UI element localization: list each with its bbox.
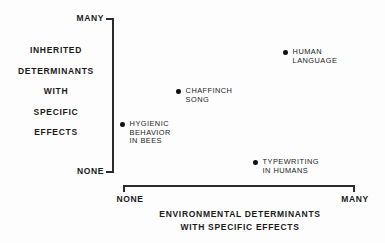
data-point-chaffinch-song[interactable]: CHAFFINCH SONG (176, 87, 232, 104)
data-point-label-line: IN BEES (130, 137, 171, 146)
data-point-label: HUMAN LANGUAGE (293, 48, 338, 65)
x-axis-line (123, 185, 355, 187)
y-axis-title-line: WITH (8, 81, 104, 102)
scatter-plot-figure: MANY NONE NONE MANY INHERITED DETERMINAN… (0, 0, 385, 243)
x-axis-tick-left (123, 185, 125, 192)
x-axis-tick-right (353, 185, 355, 192)
data-point-marker-icon (283, 50, 288, 55)
data-point-label: TYPEWRITING IN HUMANS (263, 158, 319, 175)
data-point-label-line: LANGUAGE (293, 57, 338, 66)
y-axis-label-none: NONE (60, 166, 104, 176)
x-axis-title: ENVIRONMENTAL DETERMINANTS WITH SPECIFIC… (95, 208, 385, 233)
data-point-marker-icon (253, 160, 258, 165)
y-axis-tick-bottom (106, 171, 113, 173)
x-axis-label-none: NONE (110, 194, 150, 204)
x-axis-title-line: ENVIRONMENTAL DETERMINANTS (95, 208, 385, 221)
y-axis-title-line: SPECIFIC (8, 102, 104, 123)
data-point-label-line: SONG (186, 96, 233, 105)
y-axis-label-many: MANY (60, 13, 104, 23)
data-point-marker-icon (120, 122, 125, 127)
x-axis-label-many: MANY (333, 194, 377, 204)
data-point-human-language[interactable]: HUMAN LANGUAGE (283, 48, 337, 65)
y-axis-title: INHERITED DETERMINANTS WITH SPECIFIC EFF… (8, 40, 104, 143)
data-point-label: HYGIENIC BEHAVIOR IN BEES (130, 120, 171, 146)
data-point-typewriting-in-humans[interactable]: TYPEWRITING IN HUMANS (253, 158, 319, 175)
y-axis-line (112, 18, 114, 173)
y-axis-title-line: EFFECTS (8, 122, 104, 143)
data-point-marker-icon (176, 89, 181, 94)
y-axis-title-line: INHERITED (8, 40, 104, 61)
data-point-label: CHAFFINCH SONG (186, 87, 233, 104)
data-point-hygienic-behavior-in-bees[interactable]: HYGIENIC BEHAVIOR IN BEES (120, 120, 171, 146)
data-point-label-line: IN HUMANS (263, 167, 319, 176)
y-axis-title-line: DETERMINANTS (8, 61, 104, 82)
y-axis-tick-top (106, 18, 113, 20)
x-axis-title-line: WITH SPECIFIC EFFECTS (95, 221, 385, 234)
